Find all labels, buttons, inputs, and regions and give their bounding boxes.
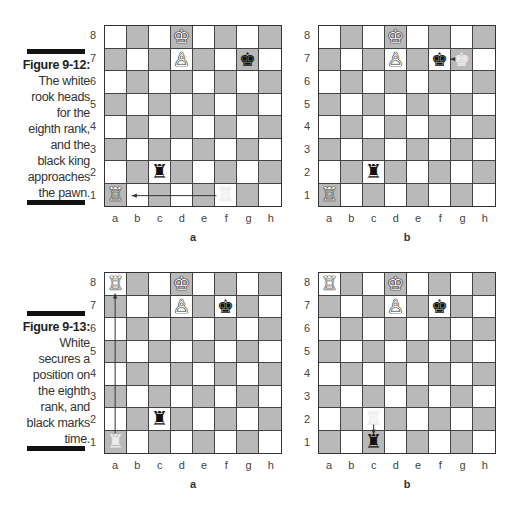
white-pawn-icon: ♙ xyxy=(387,50,404,69)
square-f7: ♚ xyxy=(215,296,237,319)
square-e7 xyxy=(193,49,215,72)
square-g8 xyxy=(451,273,473,296)
file-label: a xyxy=(318,459,340,471)
square-h4 xyxy=(473,116,495,139)
file-label: e xyxy=(193,212,215,224)
square-a7 xyxy=(105,296,127,319)
black-rook-icon: ♜ xyxy=(151,162,168,181)
rank-labels: 87654321 xyxy=(90,25,102,207)
rank-label: 7 xyxy=(304,52,310,64)
square-d6 xyxy=(385,71,407,94)
square-b8 xyxy=(341,26,363,49)
caption-line: black king xyxy=(20,153,90,169)
square-h2 xyxy=(259,161,281,184)
square-f3 xyxy=(429,386,451,409)
square-h1 xyxy=(259,184,281,207)
white-rook-icon: ♖ xyxy=(107,185,124,204)
rank-label: 2 xyxy=(304,413,310,425)
square-a4 xyxy=(319,363,341,386)
square-b4 xyxy=(127,116,149,139)
caption-line: time. xyxy=(20,431,90,447)
square-g5 xyxy=(451,94,473,117)
square-c3 xyxy=(149,139,171,162)
square-h3 xyxy=(473,139,495,162)
file-labels: abcdefgh xyxy=(104,212,282,226)
square-d3 xyxy=(385,139,407,162)
square-e7 xyxy=(193,296,215,319)
caption-line: position on xyxy=(20,367,90,383)
square-a3 xyxy=(319,139,341,162)
square-a1 xyxy=(319,431,341,454)
rank-label: 7 xyxy=(90,52,96,64)
square-b1 xyxy=(127,431,149,454)
square-c3 xyxy=(149,386,171,409)
board-caption: b xyxy=(397,478,417,490)
square-g6 xyxy=(451,318,473,341)
square-c7 xyxy=(149,296,171,319)
square-e5 xyxy=(407,341,429,364)
black-rook-icon: ♜ xyxy=(365,162,382,181)
file-label: h xyxy=(474,459,496,471)
square-e6 xyxy=(193,318,215,341)
square-b3 xyxy=(127,386,149,409)
square-e7 xyxy=(407,296,429,319)
rank-label: 8 xyxy=(90,29,96,41)
square-d4 xyxy=(385,363,407,386)
file-label: h xyxy=(474,212,496,224)
file-label: f xyxy=(215,459,237,471)
square-g7 xyxy=(237,296,259,319)
square-a5 xyxy=(319,94,341,117)
white-rook-icon: ♖ xyxy=(321,274,338,293)
square-a2 xyxy=(105,408,127,431)
square-c6 xyxy=(363,71,385,94)
square-g6 xyxy=(451,71,473,94)
square-h4 xyxy=(473,363,495,386)
square-d5 xyxy=(171,94,193,117)
square-c2: ♜ xyxy=(149,408,171,431)
square-b7 xyxy=(127,296,149,319)
square-d8: ♔ xyxy=(385,273,407,296)
square-h5 xyxy=(473,341,495,364)
square-c4 xyxy=(363,363,385,386)
rank-label: 6 xyxy=(304,322,310,334)
square-g3 xyxy=(237,386,259,409)
file-label: c xyxy=(149,212,171,224)
square-d1 xyxy=(171,184,193,207)
square-g2 xyxy=(237,161,259,184)
square-a4 xyxy=(319,116,341,139)
square-c4 xyxy=(149,363,171,386)
square-h5 xyxy=(259,341,281,364)
square-f8 xyxy=(429,26,451,49)
square-b2 xyxy=(127,408,149,431)
square-f3 xyxy=(215,139,237,162)
square-a4 xyxy=(105,363,127,386)
square-f7: ♚ xyxy=(429,296,451,319)
square-b3 xyxy=(341,386,363,409)
square-g3 xyxy=(451,386,473,409)
rank-label: 3 xyxy=(304,143,310,155)
square-f4 xyxy=(215,363,237,386)
square-f2 xyxy=(215,161,237,184)
square-c4 xyxy=(363,116,385,139)
square-h7 xyxy=(473,49,495,72)
square-e2 xyxy=(193,408,215,431)
square-b7 xyxy=(341,296,363,319)
rank-label: 1 xyxy=(90,189,96,201)
rank-labels: 87654321 xyxy=(90,272,102,454)
rank-label: 4 xyxy=(90,367,96,379)
square-d4 xyxy=(171,363,193,386)
square-e8 xyxy=(407,26,429,49)
square-c8 xyxy=(363,26,385,49)
square-d2 xyxy=(171,161,193,184)
square-f6 xyxy=(429,71,451,94)
caption-line: secures a xyxy=(20,351,90,367)
square-c6 xyxy=(149,318,171,341)
rank-label: 4 xyxy=(304,367,310,379)
white-rook-icon: ♖ xyxy=(321,185,338,204)
square-b3 xyxy=(127,139,149,162)
file-label: e xyxy=(193,459,215,471)
rank-labels: 87654321 xyxy=(304,25,316,207)
square-f7: ♚ xyxy=(429,49,451,72)
square-a7 xyxy=(105,49,127,72)
white-pawn-icon: ♙ xyxy=(173,50,190,69)
